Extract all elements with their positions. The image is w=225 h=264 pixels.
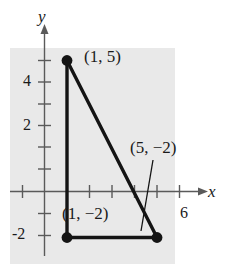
vertex-dot-1-5	[62, 55, 73, 66]
x-tick-label-6: 6	[180, 205, 188, 221]
y-tick-label-2: 2	[23, 117, 31, 133]
y-tick-label-4: 4	[23, 73, 31, 89]
coordinate-plane-canvas	[0, 0, 225, 264]
vertex-dot-5-neg2	[152, 232, 163, 243]
x-axis-arrow	[198, 188, 208, 196]
graph-figure: y x 4 2 -2 6 (1, 5) (1, −2) (5, −2)	[0, 0, 225, 264]
y-axis-label: y	[38, 8, 46, 25]
y-tick-label-neg2: -2	[12, 226, 25, 242]
label-point-1-5: (1, 5)	[84, 48, 121, 65]
label-point-5-neg2: (5, −2)	[130, 139, 176, 156]
x-axis-label: x	[208, 183, 216, 200]
label-point-1-neg2: (1, −2)	[62, 205, 108, 222]
vertex-dot-1-neg2	[62, 232, 73, 243]
